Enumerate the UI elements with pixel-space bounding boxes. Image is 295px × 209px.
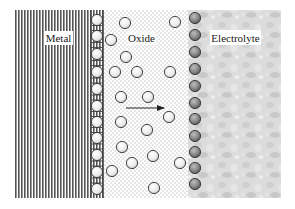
electrolyte-interface-ion-icon [189,29,200,40]
metal-interface-ion-icon [91,132,102,143]
metal-interface-ion-icon [91,66,102,77]
oxide-mobile-ion-icon [115,116,126,127]
oxide-mobile-ion-icon [106,165,117,176]
electrolyte-interface-ion-icon [189,46,200,57]
oxide-mobile-ion-icon [116,141,127,152]
oxide-mobile-ion-icon [142,91,153,102]
metal-interface-ion-icon [91,149,102,160]
oxide-mobile-ion-icon [148,182,159,193]
oxide-label-text: Oxide [128,32,155,44]
metal-interface-ion-icon [91,14,102,25]
electrolyte-interface-ion-icon [189,63,200,74]
electrolyte-interface-ion-icon [189,146,200,157]
oxide-mobile-ion-icon [131,66,142,77]
electrolyte-interface-ion-icon [189,97,200,108]
diagram-canvas: Metal Oxide Electrolyte [0,0,295,209]
electrolyte-interface-ion-icon [189,130,200,141]
oxide-mobile-ion-icon [109,66,120,77]
oxide-label: Oxide [127,31,156,45]
electrolyte-interface-ion-icon [189,162,200,173]
electrolyte-interface-ion-icon [189,178,200,189]
oxide-mobile-ion-icon [115,91,126,102]
electrolyte-interface-ion-icon [189,12,200,23]
metal-interface-ion-icon [91,83,102,94]
oxide-mobile-ion-icon [147,150,158,161]
metal-interface-ion-icon [91,100,102,111]
oxide-mobile-ion-icon [164,66,175,77]
electrolyte-label-text: Electrolyte [211,32,259,44]
oxide-mobile-ion-icon [169,16,180,27]
metal-label: Metal [44,31,73,45]
metal-interface-ion-icon [91,48,102,59]
electrolyte-interface-ion-icon [189,113,200,124]
metal-interface-ion-icon [91,183,102,194]
electrolyte-interface-ion-icon [189,80,200,91]
oxide-mobile-ion-icon [120,51,131,62]
oxide-mobile-ion-icon [141,124,152,135]
electrolyte-label: Electrolyte [210,30,261,45]
oxide-mobile-ion-icon [126,157,137,168]
metal-label-text: Metal [46,32,72,44]
oxide-mobile-ion-icon [119,17,130,28]
metal-interface-ion-icon [91,30,102,41]
oxide-mobile-ion-icon [174,157,185,168]
metal-interface-ion-icon [91,166,102,177]
oxide-mobile-ion-icon [105,34,116,45]
metal-oxide-electrolyte-diagram: Metal Oxide Electrolyte [0,0,295,209]
oxide-mobile-ion-icon [163,111,174,122]
metal-interface-ion-icon [91,116,102,127]
